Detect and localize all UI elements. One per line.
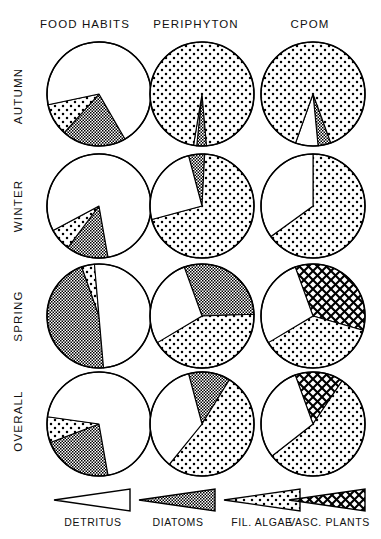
pie-slice [94,264,151,368]
legend-swatch-detritus [52,486,134,512]
legend-swatch-diatoms [137,486,219,512]
legend-wedge-shape [139,489,215,511]
pie-autumn-food-habits [45,40,153,148]
column-header-cpom: CPOM [255,18,365,30]
column-header-periphyton: PERIPHYTON [142,18,250,30]
legend-wedge-shape [54,489,130,511]
row-label-spring: SPRING [12,280,24,352]
pie-spring-cpom [259,262,367,370]
pie-spring-periphyton [148,262,256,370]
pie-overall-food-habits [45,370,153,478]
figure-root: FOOD HABITS PERIPHYTON CPOM AUTUMN WINTE… [0,0,381,539]
pie-autumn-cpom [259,40,367,148]
pie-overall-periphyton [148,370,256,478]
legend-swatch-vasc-plants [287,486,369,512]
legend-wedge-shape [289,489,365,511]
pie-spring-food-habits [45,262,153,370]
row-label-winter: WINTER [12,170,24,242]
column-header-food-habits: FOOD HABITS [30,18,140,30]
pie-winter-food-habits [45,152,153,260]
row-label-autumn: AUTUMN [12,60,24,132]
row-label-overall: OVERALL [12,385,24,457]
pie-overall-cpom [259,370,367,478]
pie-winter-periphyton [148,152,256,260]
pie-autumn-periphyton [148,40,256,148]
legend-label-vasc-plants: VASC. PLANTS [279,516,379,528]
pie-winter-cpom [259,152,367,260]
